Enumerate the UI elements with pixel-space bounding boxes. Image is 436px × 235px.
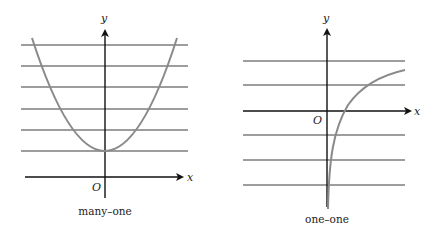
many-one-graph: y x O many–one (21, 12, 194, 217)
y-axis-label: y (322, 12, 330, 25)
origin-label: O (313, 114, 322, 127)
caption-one-one: one–one (305, 213, 349, 225)
origin-label: O (92, 181, 101, 194)
y-axis-label: y (100, 12, 108, 25)
caption-many-one: many–one (78, 205, 131, 217)
function-diagrams: y x O many–one y x O one–one (0, 0, 436, 235)
log-curve (328, 70, 405, 209)
horizontal-lines (243, 61, 405, 185)
one-one-graph: y x O one–one (243, 12, 421, 225)
x-axis-label: x (187, 171, 194, 184)
x-axis-label: x (414, 105, 421, 118)
